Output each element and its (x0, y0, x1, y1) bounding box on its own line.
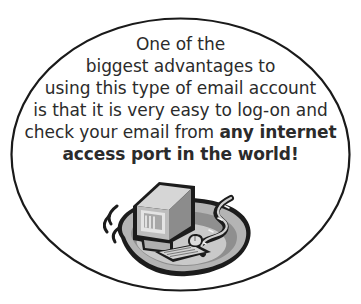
quote-line-5-emphasis: any internet (219, 122, 336, 142)
quote-line-4: is that it is very easy to log-on and (14, 99, 347, 121)
quote-line-6: access port in the world! (14, 143, 347, 165)
callout-container: One of the biggest advantages to using t… (0, 0, 361, 304)
quote-line-3: using this type of email account (14, 77, 347, 99)
quote-line-1: One of the (14, 33, 347, 55)
quote-line-5: check your email from any internet (14, 121, 347, 143)
quote-text: One of the biggest advantages to using t… (14, 33, 347, 165)
quote-line-2: biggest advantages to (14, 55, 347, 77)
mouse (188, 234, 203, 247)
quote-line-5-plain: check your email from (24, 122, 219, 142)
motion-lines (104, 206, 119, 242)
computer-workstation-clipart (103, 172, 258, 287)
